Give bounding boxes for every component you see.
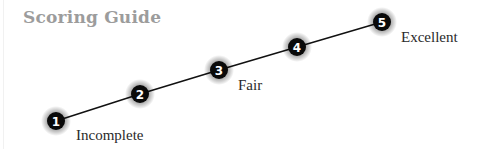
scale-marker-2: 2 [125, 79, 155, 109]
scale-marker-4: 4 [282, 32, 312, 62]
marker-number: 3 [215, 64, 223, 78]
scale-line-graphic: 12345 [0, 0, 489, 149]
label-incomplete: Incomplete [76, 127, 143, 144]
scale-marker-3: 3 [204, 55, 234, 85]
marker-number: 2 [136, 88, 144, 102]
label-fair: Fair [238, 77, 262, 94]
scale-marker-1: 1 [41, 106, 71, 136]
marker-number: 4 [293, 41, 301, 55]
scoring-guide-diagram: Scoring Guide 12345 Incomplete Fair Exce… [0, 0, 489, 149]
marker-number: 5 [378, 16, 386, 30]
marker-number: 1 [52, 115, 60, 129]
label-excellent: Excellent [401, 29, 458, 46]
scale-marker-5: 5 [367, 7, 397, 37]
